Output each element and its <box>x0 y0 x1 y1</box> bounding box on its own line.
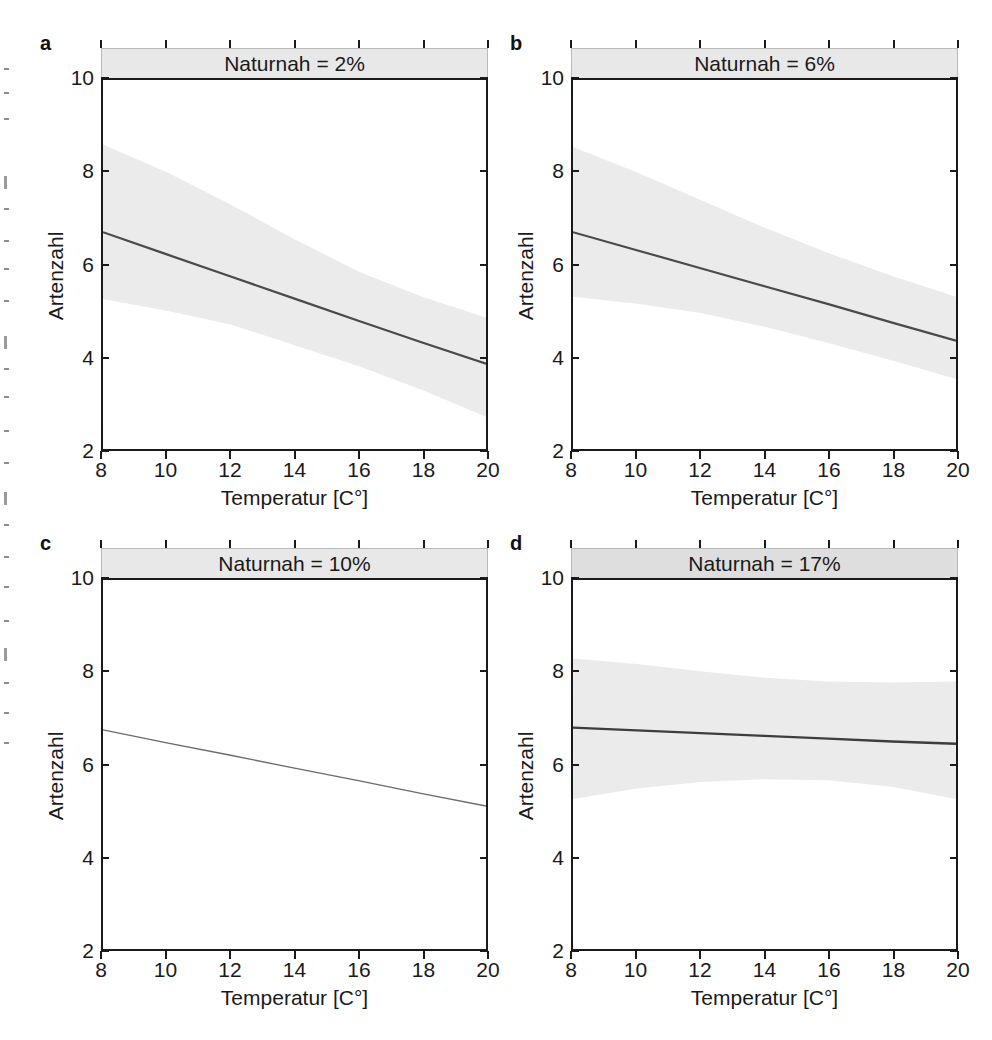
panel-c-strip-label: Naturnah = 10% <box>218 552 370 576</box>
panel-d-confidence-band <box>573 658 956 799</box>
panel-a-y-tick-2 <box>101 450 109 452</box>
panel-letter-b: b <box>510 32 522 55</box>
panel-c-x-tick-label-12: 12 <box>208 958 252 982</box>
panel-b-y-tick-right-10 <box>950 77 958 79</box>
panel-d-plot <box>573 580 956 949</box>
panel-d-x-tick-label-20: 20 <box>936 958 980 982</box>
panel-c-y-tick-label-10: 10 <box>54 566 94 590</box>
panel-a-x-tick-label-10: 10 <box>144 458 188 482</box>
panel-c-x-tick-label-10: 10 <box>144 958 188 982</box>
panel-a-axes <box>101 78 488 451</box>
panel-b-x-tick-label-14: 14 <box>743 458 787 482</box>
panel-b-x-tick-label-8: 8 <box>549 458 593 482</box>
panel-d-y-tick-10 <box>571 577 579 579</box>
scan-mark <box>4 524 9 526</box>
figure-panel-grid: a Naturnah = 2% Temperatur [C°] Artenzah… <box>0 0 992 1040</box>
panel-c-y-tick-label-8: 8 <box>54 659 94 683</box>
panel-d-y-tick-right-10 <box>950 577 958 579</box>
scan-mark <box>4 300 9 302</box>
panel-d-axes <box>571 578 958 951</box>
panel-d-strip-header: Naturnah = 17% <box>571 548 958 578</box>
panel-letter-d: d <box>510 532 522 555</box>
panel-c-x-tick-label-14: 14 <box>273 958 317 982</box>
panel-a-y-tick-4 <box>101 357 109 359</box>
scan-mark <box>4 368 9 370</box>
panel-c-y-tick-10 <box>101 577 109 579</box>
panel-d-y-tick-label-10: 10 <box>524 566 564 590</box>
scan-mark <box>4 492 7 505</box>
scan-mark <box>4 712 9 714</box>
panel-b-y-tick-right-6 <box>950 264 958 266</box>
panel-c: c Naturnah = 10% Temperatur [C°] Artenza… <box>28 528 488 1028</box>
panel-letter-c: c <box>40 532 51 555</box>
panel-b-x-tick-top-16 <box>828 40 830 48</box>
panel-a-y-tick-10 <box>101 77 109 79</box>
panel-d-x-tick-top-8 <box>570 540 572 548</box>
panel-b-y-tick-right-8 <box>950 170 958 172</box>
panel-d-x-tick-label-10: 10 <box>614 958 658 982</box>
panel-d-y-tick-2 <box>571 950 579 952</box>
panel-d-y-tick-label-8: 8 <box>524 659 564 683</box>
panel-b-x-tick-top-8 <box>570 40 572 48</box>
panel-b-x-tick-top-20 <box>957 40 959 48</box>
panel-a-x-tick-label-18: 18 <box>402 458 446 482</box>
panel-b-y-tick-10 <box>571 77 579 79</box>
panel-b-y-tick-label-4: 4 <box>524 346 564 370</box>
panel-c-x-tick-top-8 <box>100 540 102 548</box>
panel-d-y-tick-label-4: 4 <box>524 846 564 870</box>
panel-a-confidence-band <box>103 145 486 417</box>
panel-c-x-tick-top-14 <box>294 540 296 548</box>
panel-b-axes <box>571 78 958 451</box>
panel-c-strip-header: Naturnah = 10% <box>101 548 488 578</box>
scan-mark <box>4 92 9 94</box>
panel-a-y-tick-right-8 <box>480 170 488 172</box>
panel-a-y-tick-label-10: 10 <box>54 66 94 90</box>
panel-b-x-tick-top-18 <box>893 40 895 48</box>
panel-b-y-tick-8 <box>571 170 579 172</box>
panel-letter-a: a <box>40 32 51 55</box>
panel-d-y-tick-6 <box>571 764 579 766</box>
scan-mark <box>4 176 7 189</box>
scan-artifact-marks <box>0 0 18 1040</box>
panel-c-y-tick-label-4: 4 <box>54 846 94 870</box>
panel-c-x-tick-top-12 <box>229 540 231 548</box>
scan-mark <box>4 620 9 622</box>
panel-c-y-tick-label-6: 6 <box>54 753 94 777</box>
panel-d: d Naturnah = 17% Temperatur [C°] Artenza… <box>498 528 958 1028</box>
panel-d-x-tick-label-8: 8 <box>549 958 593 982</box>
panel-a-y-tick-label-8: 8 <box>54 159 94 183</box>
panel-d-strip-label: Naturnah = 17% <box>688 552 840 576</box>
scan-mark <box>4 336 7 349</box>
scan-mark <box>4 556 9 558</box>
panel-d-y-tick-right-8 <box>950 670 958 672</box>
panel-c-x-tick-top-10 <box>165 540 167 548</box>
panel-b-x-axis-title: Temperatur [C°] <box>571 486 958 510</box>
panel-a-x-tick-top-8 <box>100 40 102 48</box>
panel-d-x-tick-top-20 <box>957 540 959 548</box>
panel-c-regression-line <box>103 730 486 806</box>
panel-d-x-tick-label-16: 16 <box>807 958 851 982</box>
panel-a-y-tick-label-4: 4 <box>54 346 94 370</box>
panel-c-x-tick-label-16: 16 <box>337 958 381 982</box>
panel-a-x-tick-top-18 <box>423 40 425 48</box>
panel-b: b Naturnah = 6% Temperatur [C°] Artenzah… <box>498 28 958 528</box>
panel-c-x-tick-top-16 <box>358 540 360 548</box>
panel-c-y-tick-right-4 <box>480 857 488 859</box>
panel-a-y-tick-label-6: 6 <box>54 253 94 277</box>
scan-mark <box>4 430 9 432</box>
panel-a-x-axis-title: Temperatur [C°] <box>101 486 488 510</box>
panel-c-x-tick-label-8: 8 <box>79 958 123 982</box>
panel-c-y-tick-6 <box>101 764 109 766</box>
panel-a-x-tick-top-14 <box>294 40 296 48</box>
panel-c-y-tick-2 <box>101 950 109 952</box>
panel-a-y-tick-right-4 <box>480 357 488 359</box>
scan-mark <box>4 396 9 398</box>
panel-d-x-tick-label-18: 18 <box>872 958 916 982</box>
scan-mark <box>4 268 9 270</box>
panel-a-y-tick-8 <box>101 170 109 172</box>
panel-c-x-axis-title: Temperatur [C°] <box>101 986 488 1010</box>
scan-mark <box>4 586 9 588</box>
panel-a-x-tick-label-8: 8 <box>79 458 123 482</box>
panel-b-x-tick-top-12 <box>699 40 701 48</box>
panel-a-y-tick-right-6 <box>480 264 488 266</box>
